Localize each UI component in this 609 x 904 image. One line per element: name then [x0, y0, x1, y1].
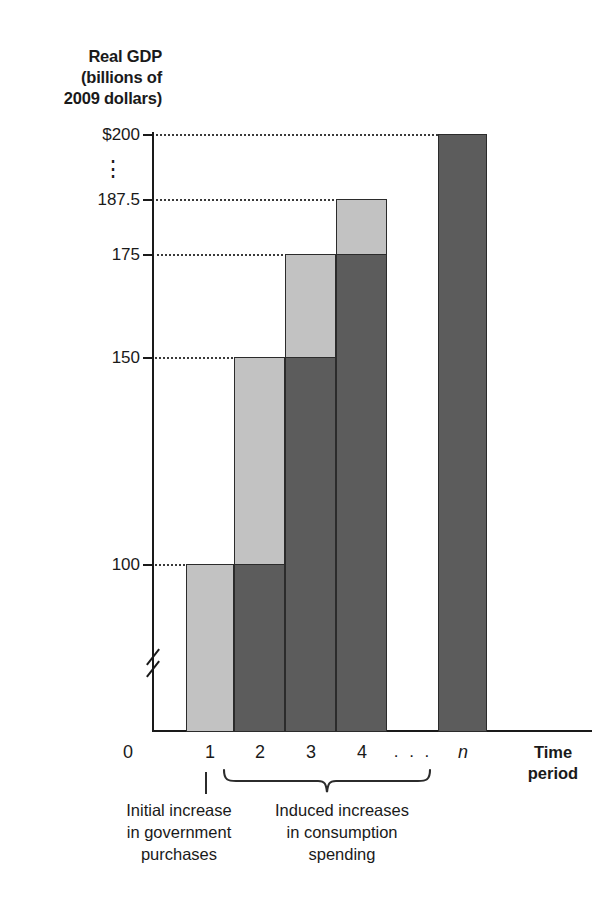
xtick-label-2: 2	[255, 742, 265, 763]
y-axis-ellipsis: ⋮	[102, 163, 124, 174]
bar-period-n-dark	[438, 134, 487, 732]
ytick-label-150: 150	[112, 348, 140, 368]
xtick-label-n: n	[458, 742, 468, 763]
bar-period-4-light	[336, 199, 387, 255]
annotation-induced-line-3: spending	[258, 844, 426, 866]
annotation-induced-line-1: Induced increases	[258, 800, 426, 822]
ytick-mark-100	[143, 564, 154, 566]
gridline-187-5	[152, 199, 346, 201]
ytick-label-100: 100	[112, 555, 140, 575]
annotation-initial-line-1: Initial increase	[104, 800, 254, 822]
annotation-induced-line-2: in consumption	[258, 822, 426, 844]
gridline-200	[152, 134, 446, 136]
annotation-initial-line-3: purchases	[104, 844, 254, 866]
ytick-label-175: 175	[112, 245, 140, 265]
y-axis-title: Real GDP (billions of 2009 dollars)	[14, 46, 162, 109]
xtick-label-3: 3	[306, 742, 316, 763]
x-axis-title-line-1: Time	[505, 742, 601, 763]
ytick-label-187-5: 187.5	[97, 190, 140, 210]
ytick-mark-187-5	[143, 199, 154, 201]
y-axis-title-line-2: (billions of	[14, 67, 162, 88]
annotation-induced-increases: Induced increases in consumption spendin…	[258, 800, 426, 865]
y-axis-line	[152, 132, 154, 732]
x-axis-title: Time period	[505, 742, 601, 785]
annotation-initial-increase: Initial increase in government purchases	[104, 800, 254, 865]
bar-period-2-dark	[234, 564, 285, 732]
xtick-label-4: 4	[357, 742, 367, 763]
ytick-mark-150	[143, 357, 154, 359]
y-axis-tick-labels: $200 ⋮ 187.5 175 150 100	[20, 132, 140, 732]
bar-period-4-dark	[336, 254, 387, 732]
annotation-initial-line-2: in government	[104, 822, 254, 844]
ytick-label-200: $200	[102, 125, 140, 145]
ytick-mark-200	[143, 134, 154, 136]
gridline-175	[152, 254, 295, 256]
xtick-label-1: 1	[205, 742, 215, 763]
induced-increases-brace-icon	[222, 768, 432, 798]
ytick-mark-175	[143, 254, 154, 256]
y-axis-title-line-3: 2009 dollars)	[14, 88, 162, 109]
bar-period-3-dark	[285, 357, 336, 732]
bar-period-3-light	[285, 254, 336, 358]
xtick-label-0: 0	[123, 742, 133, 763]
chart-plot-area	[152, 132, 510, 732]
bar-period-2-light	[234, 357, 285, 565]
bar-period-1-light	[186, 564, 234, 732]
xtick-label-ellipsis: . . .	[394, 742, 433, 762]
y-axis-title-line-1: Real GDP	[14, 46, 162, 67]
gridline-150	[152, 357, 244, 359]
x-axis-title-line-2: period	[505, 763, 601, 784]
initial-increase-marker-line	[205, 772, 207, 794]
